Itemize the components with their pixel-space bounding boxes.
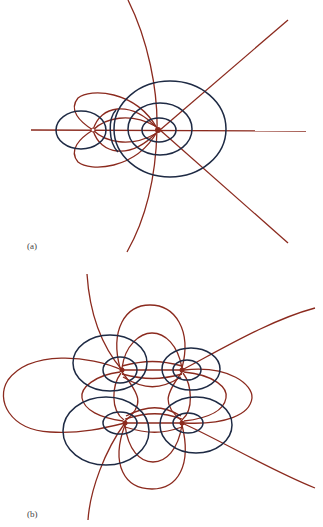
panel-b-diagram [3, 274, 315, 520]
charge-large [155, 127, 161, 133]
charge-small [91, 128, 95, 132]
charge-top-right [180, 368, 185, 373]
panel-a-diagram [31, 0, 306, 252]
panel-a-label: (a) [27, 241, 37, 251]
field-diagram [0, 0, 323, 527]
charge-top-left [120, 368, 125, 373]
panel-b-equipotentials [63, 335, 232, 465]
charge-bottom-left [123, 421, 128, 426]
charge-bottom-right [180, 421, 185, 426]
panel-b-label: (b) [27, 509, 38, 519]
panel-b-field-lines [3, 274, 315, 520]
panel-a-field-lines [31, 0, 306, 252]
